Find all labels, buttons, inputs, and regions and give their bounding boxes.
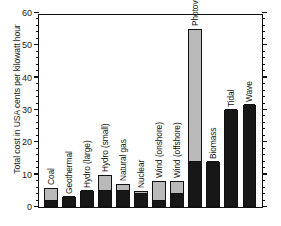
chart-root: Total cost in USA cents per kilowatt hou…: [0, 0, 281, 226]
bar: [243, 105, 257, 207]
y-axis-tick-label: 50: [22, 40, 32, 50]
right-axis-minor-tick: [262, 25, 265, 26]
right-axis-minor-tick: [262, 31, 265, 32]
bar-group: Hydro (small): [98, 13, 112, 207]
right-axis-minor-tick: [262, 167, 265, 168]
y-axis-tick-label: 0: [27, 202, 32, 212]
bar: [80, 191, 94, 207]
right-axis-major-tick: [262, 109, 267, 110]
bar-category-label: Photovoltaic solar: [190, 0, 200, 26]
bar: [152, 181, 166, 207]
right-axis-minor-tick: [262, 200, 265, 201]
bar: [224, 110, 238, 207]
bar: [188, 29, 202, 207]
bar-group: Geothermal: [62, 13, 76, 207]
right-axis-minor-tick: [262, 161, 265, 162]
bar-group: Coal: [44, 13, 58, 207]
bar-group: Wind (onshore): [152, 13, 166, 207]
bar-group: Wind (offshore): [170, 13, 184, 207]
bar: [44, 188, 58, 207]
right-axis-major-tick: [262, 44, 267, 45]
y-axis-tick-label: 10: [22, 170, 32, 180]
bar: [170, 181, 184, 207]
bar-lower-segment: [117, 190, 129, 206]
bar-lower-segment: [153, 200, 165, 206]
plot-area: 0102030405060 CoalGeothermalHydro (large…: [38, 14, 263, 208]
bar-category-label: Biomass: [208, 127, 218, 158]
right-axis-major-tick: [262, 12, 267, 13]
bar-group: Biomass: [206, 13, 220, 207]
right-axis-minor-tick: [262, 90, 265, 91]
bar-lower-segment: [225, 109, 237, 206]
right-axis-minor-tick: [262, 103, 265, 104]
right-axis-major-tick: [262, 206, 267, 207]
bar-group: Wave: [243, 13, 257, 207]
bar-lower-segment: [244, 104, 256, 206]
bar-category-label: Geothermal: [64, 152, 74, 195]
right-axis-minor-tick: [262, 193, 265, 194]
right-axis-major-tick: [262, 173, 267, 174]
right-axis-major-tick: [262, 76, 267, 77]
y-axis-title: Total cost in USA cents per kilowatt hou…: [12, 0, 22, 199]
bar-group: Hydro (large): [80, 13, 94, 207]
right-axis-minor-tick: [262, 128, 265, 129]
bar-lower-segment: [135, 193, 147, 206]
bar-category-label: Hydro (large): [82, 140, 92, 188]
bar-lower-segment: [171, 193, 183, 206]
bar-lower-segment: [207, 161, 219, 206]
right-axis-minor-tick: [262, 180, 265, 181]
y-axis-major-tick: [34, 12, 39, 13]
bar-category-label: Hydro (small): [100, 123, 110, 172]
bar-category-label: Tidal: [226, 90, 236, 107]
bar-group: Nuclear: [134, 13, 148, 207]
right-axis-minor-tick: [262, 154, 265, 155]
right-axis-minor-tick: [262, 38, 265, 39]
right-axis-minor-tick: [262, 135, 265, 136]
right-axis-minor-tick: [262, 115, 265, 116]
y-axis-tick-label: 40: [22, 73, 32, 83]
right-axis-minor-tick: [262, 96, 265, 97]
right-axis-minor-tick: [262, 148, 265, 149]
bar-group: Photovoltaic solar: [188, 13, 202, 207]
bar: [62, 197, 76, 207]
bar-category-label: Wind (onshore): [154, 122, 164, 178]
bar-lower-segment: [63, 196, 75, 206]
bar-category-label: Coal: [46, 168, 56, 185]
right-axis-minor-tick: [262, 64, 265, 65]
bar-group: Natural gas: [116, 13, 130, 207]
y-axis-tick-label: 60: [22, 8, 32, 18]
right-axis-minor-tick: [262, 18, 265, 19]
bar-category-label: Natural gas: [118, 140, 128, 182]
right-axis-minor-tick: [262, 187, 265, 188]
right-axis-minor-tick: [262, 122, 265, 123]
y-axis-tick-label: 30: [22, 105, 32, 115]
bar-category-label: Nuclear: [136, 160, 146, 188]
bar-series-container: CoalGeothermalHydro (large)Hydro (small)…: [39, 15, 262, 207]
bar-lower-segment: [189, 161, 201, 206]
right-axis-minor-tick: [262, 70, 265, 71]
bar-group: Tidal: [224, 13, 238, 207]
right-axis-minor-tick: [262, 83, 265, 84]
y-axis-tick-label: 20: [22, 137, 32, 147]
bar-category-label: Wave: [244, 81, 254, 102]
right-axis-minor-tick: [262, 51, 265, 52]
bar: [98, 175, 112, 207]
bar-category-label: Wind (offshore): [172, 123, 182, 179]
right-axis-minor-tick: [262, 57, 265, 58]
bar-lower-segment: [81, 190, 93, 206]
right-axis-major-tick: [262, 141, 267, 142]
bar-lower-segment: [45, 200, 57, 206]
bar: [116, 184, 130, 207]
bar: [206, 162, 220, 207]
bar-lower-segment: [99, 190, 111, 206]
bar: [134, 191, 148, 207]
